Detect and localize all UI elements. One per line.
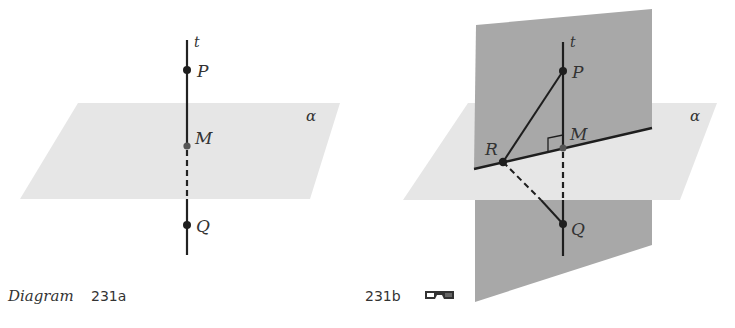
point-q-a xyxy=(183,221,191,229)
label-r-b: R xyxy=(484,139,498,159)
label-p-b: P xyxy=(571,62,584,82)
label-t-a: t xyxy=(194,34,200,50)
label-q-b: Q xyxy=(571,219,585,239)
point-p-a xyxy=(183,66,191,74)
plane-alpha-a xyxy=(20,103,340,199)
label-t-b: t xyxy=(570,34,576,50)
caption-b-number: 231b xyxy=(365,288,401,304)
label-p-a: P xyxy=(196,61,209,81)
caption-a-number: 231a xyxy=(91,288,126,304)
label-m-b: M xyxy=(569,124,588,144)
point-m-a xyxy=(183,142,190,149)
label-m-a: M xyxy=(194,128,213,148)
point-m-b xyxy=(560,145,567,152)
3d-glasses-icon xyxy=(425,291,454,299)
diagram-canvas: t P M Q α Diagram 231a t P M Q xyxy=(0,0,735,328)
figure-231b: t P M Q R α 231b xyxy=(365,9,717,304)
figure-231a: t P M Q α Diagram 231a xyxy=(7,34,340,305)
label-alpha-b: α xyxy=(690,107,700,125)
point-p-b xyxy=(559,67,567,75)
label-q-a: Q xyxy=(196,216,210,236)
point-q-b xyxy=(559,220,567,228)
label-alpha-a: α xyxy=(306,107,316,125)
caption-a-prefix: Diagram xyxy=(7,287,74,305)
point-r-b xyxy=(499,158,507,166)
